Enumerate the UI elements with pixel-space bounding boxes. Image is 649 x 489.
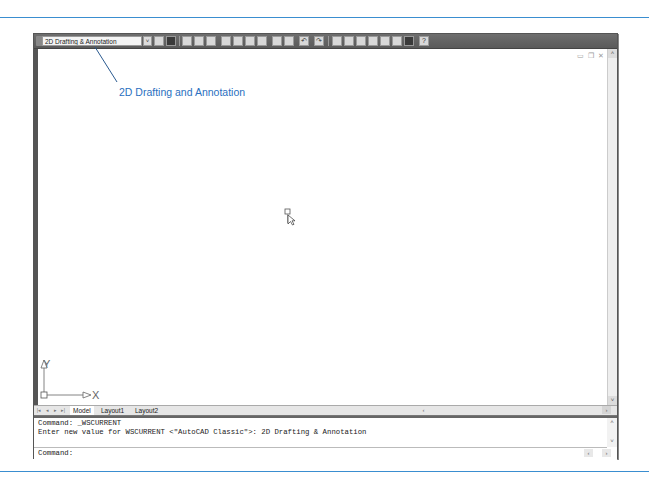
ucs-icon [39,355,99,401]
cursor-pickbox-icon [284,208,300,226]
callout-label: 2D Drafting and Annotation [119,86,245,98]
ucs-x-label: X [92,389,99,401]
callout-leader-line [0,0,649,489]
figure-bottom-rule [0,471,649,472]
